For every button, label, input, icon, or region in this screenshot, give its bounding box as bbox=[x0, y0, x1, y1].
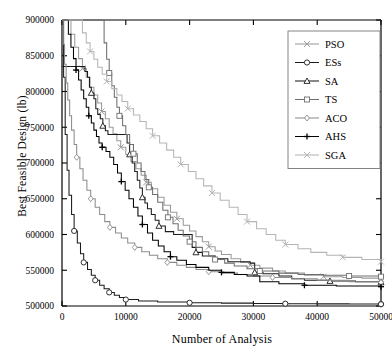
plot-canvas: 5000005500006000006500007000007500008000… bbox=[0, 0, 392, 357]
legend-label: ACO bbox=[325, 113, 348, 124]
legend-label: ESs bbox=[325, 57, 341, 68]
x-tick-label: 10000 bbox=[114, 312, 138, 322]
legend-label: SA bbox=[325, 76, 339, 87]
x-tick-label: 40000 bbox=[305, 312, 329, 322]
chart-figure: Best Feasible Design (lb) Number of Anal… bbox=[0, 0, 392, 357]
legend-label: SGA bbox=[325, 150, 346, 161]
x-tick-label: 20000 bbox=[178, 312, 202, 322]
x-tick-label: 0 bbox=[60, 312, 65, 322]
y-tick-label: 850000 bbox=[26, 51, 55, 61]
legend-label: TS bbox=[325, 94, 337, 105]
legend-label: AHS bbox=[325, 131, 346, 142]
x-tick-label: 50000 bbox=[369, 312, 392, 322]
y-tick-label: 800000 bbox=[26, 87, 55, 97]
y-tick-label: 500000 bbox=[26, 301, 55, 311]
y-tick-label: 700000 bbox=[26, 158, 55, 168]
y-tick-label: 600000 bbox=[26, 230, 55, 240]
y-tick-label: 550000 bbox=[26, 266, 55, 276]
y-tick-label: 650000 bbox=[26, 194, 55, 204]
x-tick-label: 30000 bbox=[242, 312, 266, 322]
legend: PSOESsSATSACOAHSSGA bbox=[288, 31, 380, 169]
legend-label: PSO bbox=[325, 39, 345, 50]
y-tick-label: 900000 bbox=[26, 15, 55, 25]
y-tick-label: 750000 bbox=[26, 123, 55, 133]
